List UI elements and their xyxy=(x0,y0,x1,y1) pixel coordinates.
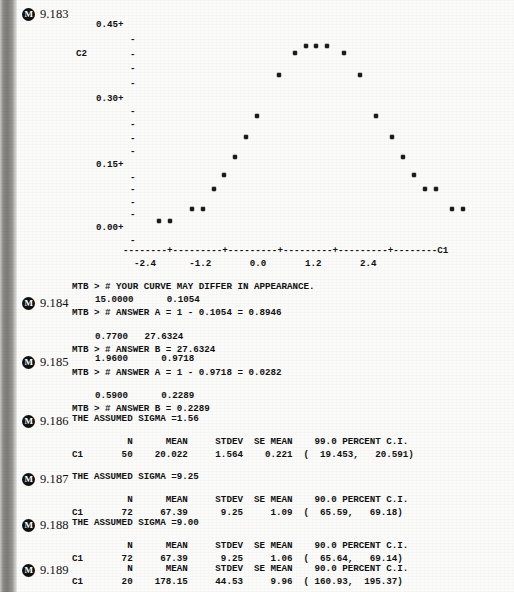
margin-marker-9.189: M9.189 xyxy=(22,563,69,578)
line-mtb-curve: MTB > # YOUR CURVE MAY DIFFER IN APPEARA… xyxy=(72,281,315,292)
scatter-point xyxy=(450,207,454,211)
exercise-number: 9.186 xyxy=(40,414,69,429)
ci-table-9186-header: N MEAN STDEV SE MEAN 99.0 PERCENT C.I. xyxy=(72,436,408,447)
line-9188-sigma: THE ASSUMED SIGMA =9.00 xyxy=(72,517,199,528)
margin-marker-9.185: M9.185 xyxy=(22,355,69,370)
x-tick-labels-row: -2.4 -1.2 0.0 1.2 2.4 xyxy=(123,258,377,269)
y-tick-label-0.00: 0.00+ xyxy=(96,222,124,233)
scatter-point xyxy=(293,51,297,55)
margin-marker-9.184: M9.184 xyxy=(22,296,69,311)
scatter-point xyxy=(304,44,308,48)
ci-table-9187-row: C1 72 67.39 9.25 1.09 ( 65.59, 69.18) xyxy=(72,507,403,518)
y-minor-tick: - xyxy=(130,146,136,157)
circled-m-icon: M xyxy=(22,519,35,532)
circled-m-icon: M xyxy=(22,415,35,428)
line-9184-a: MTB > # ANSWER A = 1 - 0.1054 = 0.8946 xyxy=(72,307,282,318)
scatter-point xyxy=(222,173,226,177)
exercise-number: 9.188 xyxy=(40,518,69,533)
minitab-scatter-plot: 0.45+ 0.30+ 0.15+ 0.00+ C2 -------------… xyxy=(0,0,514,275)
scatter-point xyxy=(201,207,205,211)
scatter-point xyxy=(461,207,465,211)
y-minor-tick: - xyxy=(130,119,136,130)
ci-table-9187-header: N MEAN STDEV SE MEAN 90.0 PERCENT C.I. xyxy=(72,494,408,505)
y-minor-tick: - xyxy=(130,172,136,183)
scatter-point xyxy=(423,187,427,191)
scatter-point xyxy=(244,135,248,139)
line-9184-vals: 15.0000 0.1054 xyxy=(95,294,200,305)
scatter-point xyxy=(233,155,237,159)
y-minor-tick: - xyxy=(130,133,136,144)
scatter-point xyxy=(401,155,405,159)
line-9185-vals: 1.9600 0.9718 xyxy=(95,353,194,364)
exercise-number: 9.189 xyxy=(40,563,69,578)
x-axis-line: --------+---------+---------+---------+-… xyxy=(123,245,448,256)
scatter-point xyxy=(255,114,259,118)
circled-m-icon: M xyxy=(22,356,35,369)
exercise-number: 9.187 xyxy=(40,472,69,487)
y-minor-tick: - xyxy=(130,184,136,195)
line-9185-a: MTB > # ANSWER A = 1 - 0.9718 = 0.0282 xyxy=(72,367,282,378)
scatter-point xyxy=(390,135,394,139)
margin-marker-9.188: M9.188 xyxy=(22,518,69,533)
y-axis-name-label: C2 xyxy=(76,48,87,59)
ci-table-9188-header: N MEAN STDEV SE MEAN 90.0 PERCENT C.I. xyxy=(72,540,408,551)
exercise-number: 9.185 xyxy=(40,355,69,370)
y-minor-tick: - xyxy=(130,78,136,89)
circled-m-icon: M xyxy=(22,564,35,577)
scatter-point xyxy=(190,207,194,211)
y-tick-label-0.45: 0.45+ xyxy=(96,19,124,30)
scatter-point xyxy=(212,187,216,191)
line-9187-sigma: THE ASSUMED SIGMA =9.25 xyxy=(72,471,199,482)
scatter-point xyxy=(314,44,318,48)
scatter-point xyxy=(168,219,172,223)
scatter-point xyxy=(325,44,329,48)
y-minor-tick: - xyxy=(130,49,136,60)
margin-marker-9.186: M9.186 xyxy=(22,414,69,429)
ci-table-9189-header: N MEAN STDEV SE MEAN 90.0 PERCENT C.I. xyxy=(72,563,408,574)
exercise-number: 9.184 xyxy=(40,296,69,311)
scatter-point xyxy=(412,173,416,177)
margin-marker-9.187: M9.187 xyxy=(22,472,69,487)
line-9184-vals2: 0.7700 27.6324 xyxy=(95,331,183,342)
y-minor-tick: - xyxy=(130,209,136,220)
circled-m-icon: M xyxy=(22,8,35,21)
y-minor-tick: - xyxy=(130,63,136,74)
y-tick-label-0.30: 0.30+ xyxy=(96,93,124,104)
line-9186-sigma: THE ASSUMED SIGMA =1.56 xyxy=(72,413,199,424)
circled-m-icon: M xyxy=(22,473,35,486)
ci-table-9186-row: C1 50 20.022 1.564 0.221 ( 19.453, 20.59… xyxy=(72,449,414,460)
y-minor-tick: - xyxy=(130,34,136,45)
circled-m-icon: M xyxy=(22,297,35,310)
line-9185-vals2: 0.5900 0.2289 xyxy=(95,390,194,401)
ci-table-9189-row: C1 20 178.15 44.53 9.96 ( 160.93, 195.37… xyxy=(72,576,403,587)
scatter-point xyxy=(157,219,161,223)
scatter-point xyxy=(374,114,378,118)
y-minor-tick: - xyxy=(130,106,136,117)
scatter-point xyxy=(342,51,346,55)
y-minor-tick: - xyxy=(130,197,136,208)
exercise-number: 9.183 xyxy=(40,7,69,22)
scatter-point xyxy=(277,73,281,77)
margin-marker-9.183: M9.183 xyxy=(22,7,69,22)
scatter-point xyxy=(434,187,438,191)
scatter-point xyxy=(358,73,362,77)
y-tick-label-0.15: 0.15+ xyxy=(96,159,124,170)
